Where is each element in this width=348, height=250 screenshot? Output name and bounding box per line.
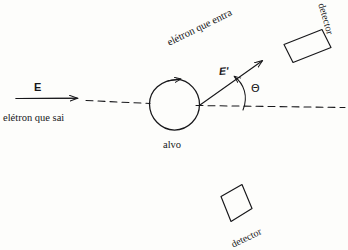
incoming-energy-label: E	[34, 82, 42, 93]
scattering-angle-label: Θ	[251, 83, 260, 94]
scattering-diagram: E elétron que sai alvo elétron que entra…	[0, 0, 348, 250]
axis-dashed-left	[86, 101, 150, 104]
target-circle	[150, 79, 200, 130]
angle-arc	[235, 77, 246, 111]
detector-bottom-box[interactable]	[221, 185, 252, 222]
incoming-electron-label: elétron que sai	[3, 113, 64, 124]
scattered-energy-label: E'	[219, 65, 229, 76]
axis-dashed-right	[196, 106, 345, 108]
target-label: alvo	[163, 140, 181, 151]
